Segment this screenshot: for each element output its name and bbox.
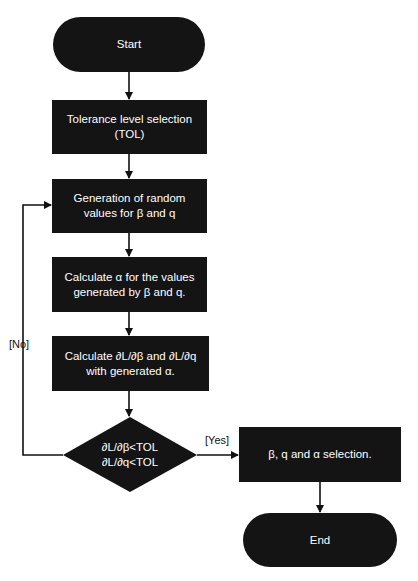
select-parameters-node: β, q and α selection. <box>239 427 401 482</box>
decision-text: ∂L/∂β<TOL ∂L/∂q<TOL <box>80 440 180 470</box>
calculate-derivatives-node: Calculate ∂L/∂β and ∂L/∂q with generated… <box>52 336 209 391</box>
derivs-line1: Calculate ∂L/∂β and ∂L/∂q <box>65 349 197 364</box>
tolerance-line2: (TOL) <box>115 127 145 142</box>
decision-line2: ∂L/∂q<TOL <box>80 455 180 470</box>
derivs-line2: with generated α. <box>86 364 174 379</box>
yes-label: [Yes] <box>205 434 229 446</box>
calculate-alpha-node: Calculate α for the values generated by … <box>52 257 207 312</box>
tolerance-selection-node: Tolerance level selection (TOL) <box>52 100 207 154</box>
generate-line2: values for β and q <box>84 206 176 221</box>
no-label: [No] <box>9 338 29 350</box>
decision-line1: ∂L/∂β<TOL <box>80 440 180 455</box>
alpha-line1: Calculate α for the values <box>64 270 194 285</box>
tolerance-line1: Tolerance level selection <box>67 112 192 127</box>
generate-random-values-node: Generation of random values for β and q <box>52 179 207 233</box>
edge-decision-to-generate-no <box>23 205 63 455</box>
end-node: End <box>243 513 397 567</box>
start-label: Start <box>117 37 141 52</box>
start-node: Start <box>53 17 205 72</box>
generate-line1: Generation of random <box>74 191 186 206</box>
alpha-line2: generated by β and q. <box>73 285 185 300</box>
select-label: β, q and α selection. <box>268 447 371 462</box>
end-label: End <box>310 533 330 548</box>
